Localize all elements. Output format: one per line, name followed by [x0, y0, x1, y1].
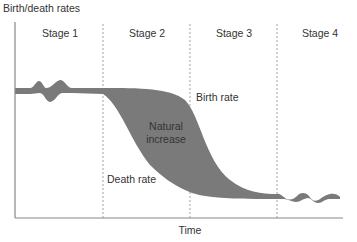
stage-3-label: Stage 3 [216, 27, 252, 39]
x-axis-label: Time [179, 224, 202, 236]
natural-increase-label-line1: Natural [149, 120, 183, 132]
y-axis-label: Birth/death rates [3, 2, 80, 14]
demographic-transition-diagram: Birth/death rates Stage 1 Stage 2 Stage … [0, 0, 357, 242]
stage-1-label: Stage 1 [42, 27, 78, 39]
death-rate-label: Death rate [107, 173, 156, 185]
natural-increase-label-line2: increase [146, 133, 186, 145]
birth-rate-label: Birth rate [196, 91, 239, 103]
stage-2-label: Stage 2 [129, 27, 165, 39]
stage-4-label: Stage 4 [302, 27, 338, 39]
